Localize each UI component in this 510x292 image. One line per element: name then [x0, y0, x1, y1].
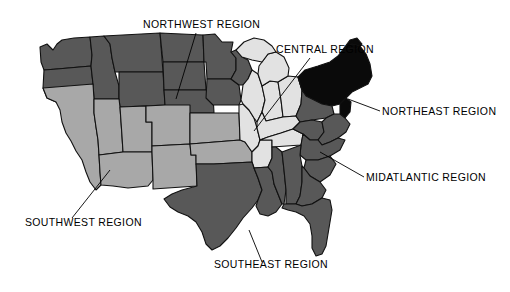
state-south-dakota	[163, 62, 206, 90]
label-northwest-region: NORTHWEST REGION	[143, 18, 260, 30]
state-wyoming	[119, 72, 165, 107]
state-florida	[282, 198, 332, 256]
state-washington	[40, 37, 92, 70]
state-california	[43, 84, 101, 190]
state-kansas	[190, 113, 240, 144]
label-southeast-region: SOUTHEAST REGION	[214, 258, 328, 270]
state-north-dakota	[160, 33, 204, 62]
state-arizona	[99, 152, 153, 188]
label-northeast-region: NORTHEAST REGION	[382, 105, 496, 117]
state-nevada	[94, 99, 123, 155]
label-midatlantic-region: MIDATLANTIC REGION	[366, 171, 486, 183]
state-minnesota	[203, 34, 236, 79]
map-canvas: NORTHWEST REGION CENTRAL REGION NORTHEAS…	[0, 0, 510, 292]
label-southwest-region: SOUTHWEST REGION	[25, 216, 142, 228]
us-regional-map-figure: NORTHWEST REGION CENTRAL REGION NORTHEAS…	[0, 0, 510, 292]
state-colorado	[146, 105, 190, 146]
label-central-region: CENTRAL REGION	[276, 43, 374, 55]
state-oklahoma	[190, 140, 252, 164]
leader-line-northeast	[348, 99, 380, 111]
